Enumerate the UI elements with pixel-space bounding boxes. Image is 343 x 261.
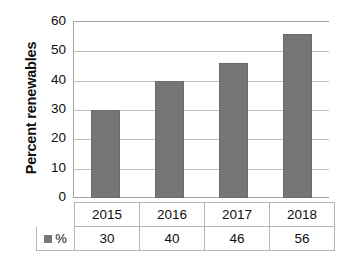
bar-2016 bbox=[155, 81, 184, 198]
value-cell: 30 bbox=[75, 227, 140, 251]
value-cell: 40 bbox=[140, 227, 205, 251]
plot-area bbox=[73, 21, 329, 198]
y-axis-tick-labels: 60 50 40 30 20 10 0 bbox=[34, 21, 70, 207]
table-row-values: % 30 40 46 56 bbox=[37, 227, 335, 251]
y-tick-label: 50 bbox=[34, 44, 66, 58]
legend-swatch-icon bbox=[44, 235, 52, 243]
y-tick-label: 60 bbox=[34, 14, 66, 28]
category-cell: 2018 bbox=[270, 203, 335, 227]
table-row-categories: 2015 2016 2017 2018 bbox=[37, 203, 335, 227]
value-cell: 56 bbox=[270, 227, 335, 251]
bar-slot bbox=[202, 22, 266, 198]
category-cell: 2017 bbox=[205, 203, 270, 227]
bar-2017 bbox=[219, 63, 248, 198]
legend-spacer-cell bbox=[37, 203, 75, 227]
y-tick-label: 30 bbox=[34, 102, 66, 116]
y-tick-label: 20 bbox=[34, 132, 66, 146]
bar-2018 bbox=[283, 34, 312, 198]
bar-2015 bbox=[91, 110, 120, 198]
category-cell: 2015 bbox=[75, 203, 140, 227]
bar-slot bbox=[74, 22, 138, 198]
legend-cell: % bbox=[37, 227, 75, 251]
bar-slot bbox=[265, 22, 329, 198]
bar-slot bbox=[138, 22, 202, 198]
value-cell: 46 bbox=[205, 227, 270, 251]
data-table: 2015 2016 2017 2018 % 30 40 46 56 bbox=[36, 202, 335, 251]
category-cell: 2016 bbox=[140, 203, 205, 227]
bar-series bbox=[74, 22, 329, 198]
legend-series-label: % bbox=[55, 231, 67, 246]
y-tick-label: 40 bbox=[34, 73, 66, 87]
bar-chart-figure: Percent renewables 60 50 40 30 20 10 0 bbox=[0, 0, 343, 261]
y-tick-label: 10 bbox=[34, 161, 66, 175]
